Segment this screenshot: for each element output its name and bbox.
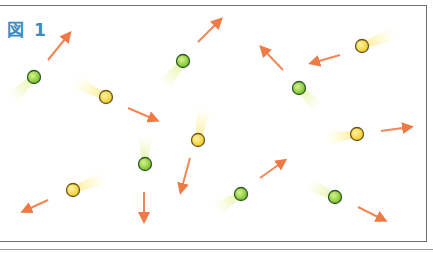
yellow-particle — [356, 40, 369, 53]
velocity-arrow — [312, 55, 340, 63]
green-particle — [235, 188, 248, 201]
velocity-arrow — [24, 200, 48, 211]
velocity-arrow — [262, 48, 283, 70]
green-particle — [28, 71, 41, 84]
green-particle — [177, 55, 190, 68]
yellow-particle — [100, 91, 113, 104]
velocity-arrow — [358, 207, 384, 220]
particle-diagram — [0, 0, 433, 253]
green-particle — [293, 82, 306, 95]
velocity-arrow — [260, 161, 284, 178]
figure-label: 図 1 — [7, 16, 48, 41]
velocity-arrow — [198, 20, 220, 42]
velocity-arrow — [381, 127, 410, 131]
yellow-particle — [351, 128, 364, 141]
velocity-arrow — [128, 108, 156, 120]
yellow-particle — [192, 134, 205, 147]
yellow-particle — [67, 184, 80, 197]
green-particle — [139, 158, 152, 171]
velocity-arrow — [181, 158, 190, 191]
green-particle — [329, 191, 342, 204]
velocity-arrow — [48, 34, 69, 60]
